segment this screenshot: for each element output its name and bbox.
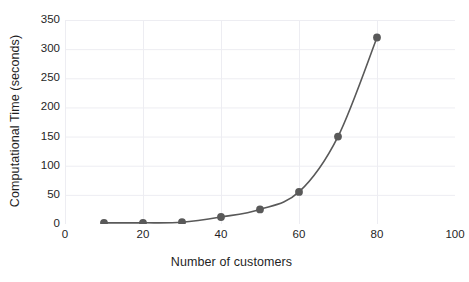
plot-area [65, 20, 455, 224]
data-point-marker [373, 34, 381, 42]
y-tick-label: 50 [26, 189, 60, 201]
x-tick-label: 20 [123, 228, 163, 241]
data-point-marker [217, 213, 225, 221]
y-tick-label: 300 [26, 43, 60, 55]
x-tick-label: 100 [435, 228, 469, 241]
data-point-marker [100, 219, 108, 224]
data-point-marker [178, 218, 186, 224]
x-axis-title: Number of customers [0, 255, 463, 269]
y-tick-label: 100 [26, 160, 60, 172]
y-tick-label: 350 [26, 14, 60, 26]
x-tick-label: 80 [357, 228, 397, 241]
y-axis-title-text: Computational Time (seconds) [8, 35, 22, 207]
data-point-marker [256, 206, 264, 214]
x-axis-tick-labels: 020406080100 [65, 228, 455, 246]
data-point-marker [334, 133, 342, 141]
y-gridlines [65, 21, 455, 225]
x-tick-label: 60 [279, 228, 319, 241]
chart-canvas [65, 20, 455, 224]
x-tick-label: 40 [201, 228, 241, 241]
data-point-marker [139, 219, 147, 224]
y-tick-label: 150 [26, 131, 60, 143]
x-tick-label: 0 [45, 228, 85, 241]
y-axis-title: Computational Time (seconds) [2, 10, 28, 232]
data-point-marker [295, 188, 303, 196]
y-tick-label: 250 [26, 73, 60, 85]
x-gridlines [66, 20, 456, 224]
y-tick-label: 200 [26, 102, 60, 114]
